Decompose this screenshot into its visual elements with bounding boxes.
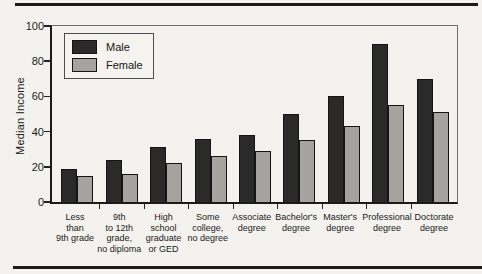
- x-axis-category-label: Bachelor's degree: [274, 212, 318, 254]
- x-axis-tick-mark: [411, 204, 412, 209]
- bar-male: [61, 169, 77, 202]
- bar-female: [211, 156, 227, 202]
- x-axis-category-label: Professional degree: [362, 212, 412, 254]
- y-axis-tick-label: 40: [12, 125, 44, 139]
- x-axis-tick-mark: [99, 204, 100, 209]
- bar-female: [344, 126, 360, 202]
- bar-female: [122, 174, 138, 202]
- x-axis-tick-mark: [144, 204, 145, 209]
- bar-male: [417, 79, 433, 202]
- x-axis-tick-mark: [277, 204, 278, 209]
- x-axis-category-label: Master's degree: [318, 212, 362, 254]
- x-axis-labels: Less than 9th grade9th to 12th grade, no…: [50, 212, 458, 254]
- legend-item-female: Female: [72, 58, 143, 72]
- legend-label-male: Male: [106, 41, 130, 53]
- bar-female: [255, 151, 271, 202]
- legend-label-female: Female: [106, 59, 143, 71]
- y-axis-tick-label: 0: [12, 195, 44, 209]
- x-axis-category-label: Some college, no degree: [186, 212, 230, 254]
- x-axis-category-label: Less than 9th grade: [53, 212, 97, 254]
- top-rule: [15, 3, 478, 6]
- bar-male: [106, 160, 122, 202]
- x-axis-tick-mark: [322, 204, 323, 209]
- bar-male: [328, 96, 344, 202]
- bar-group: [411, 26, 455, 202]
- plot-area: Male Female: [50, 25, 458, 204]
- bar-female: [433, 112, 449, 202]
- bar-female: [299, 140, 315, 202]
- x-axis-category-label: 9th to 12th grade, no diploma: [97, 212, 141, 254]
- male-series-swatch: [72, 40, 97, 54]
- y-axis-tick-label: 100: [12, 19, 44, 33]
- bar-male: [239, 135, 255, 202]
- x-axis-category-label: Doctorate degree: [412, 212, 456, 254]
- x-axis-tick-mark: [233, 204, 234, 209]
- x-axis-tick-mark: [366, 204, 367, 209]
- bar-male: [150, 147, 166, 202]
- bar-female: [77, 176, 93, 202]
- female-series-swatch: [72, 58, 97, 72]
- figure: Median Income 020406080100 Male Female L…: [0, 0, 482, 274]
- y-axis-tick-label: 60: [12, 89, 44, 103]
- legend: Male Female: [64, 33, 154, 79]
- bar-group: [366, 26, 410, 202]
- bar-group: [322, 26, 366, 202]
- bar-group: [233, 26, 277, 202]
- bottom-rule: [13, 266, 482, 269]
- bar-male: [372, 44, 388, 202]
- y-axis-tick-label: 80: [12, 54, 44, 68]
- y-axis-tick-label: 20: [12, 160, 44, 174]
- bar-female: [388, 105, 404, 202]
- bar-female: [166, 163, 182, 202]
- x-axis-tick-mark: [188, 204, 189, 209]
- bar-male: [283, 114, 299, 202]
- legend-item-male: Male: [72, 40, 143, 54]
- x-axis-category-label: High school graduate or GED: [141, 212, 185, 254]
- bar-group: [277, 26, 321, 202]
- bar-group: [188, 26, 232, 202]
- x-axis-category-label: Associate degree: [230, 212, 274, 254]
- bar-male: [195, 139, 211, 202]
